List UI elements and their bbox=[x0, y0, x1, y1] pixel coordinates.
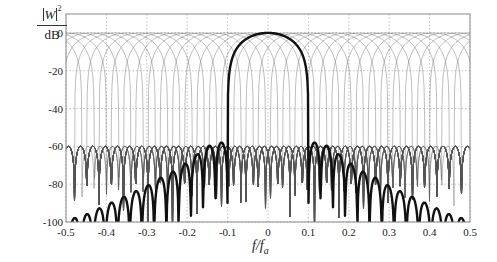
plot-area: -0.5-0.4-0.3-0.2-0.100.10.20.30.40.5 0-2… bbox=[0, 0, 497, 262]
x-tick-label: -0.2 bbox=[178, 226, 195, 238]
x-tick-label: 0.1 bbox=[302, 226, 316, 238]
window-response-curve bbox=[66, 33, 470, 232]
x-tick-labels: -0.5-0.4-0.3-0.2-0.100.10.20.30.40.5 bbox=[57, 226, 477, 238]
x-tick-label: 0.5 bbox=[463, 226, 477, 238]
x-tick-label: 0.4 bbox=[423, 226, 437, 238]
y-axis-label-exponent: 2 bbox=[57, 4, 61, 13]
y-tick-label: -80 bbox=[48, 178, 63, 190]
y-tick-label: -100 bbox=[43, 216, 64, 228]
y-axis-label-numerator: W bbox=[43, 8, 58, 21]
x-axis-label: f/fa bbox=[252, 238, 269, 256]
y-tick-label: -20 bbox=[48, 65, 63, 77]
x-tick-label: 0.2 bbox=[342, 226, 356, 238]
grid-lines bbox=[66, 14, 470, 222]
x-tick-label: 0 bbox=[265, 226, 271, 238]
x-axis-label-main: f/f bbox=[252, 238, 264, 253]
x-tick-label: 0.3 bbox=[382, 226, 396, 238]
x-tick-label: -0.1 bbox=[219, 226, 236, 238]
y-tick-label: -40 bbox=[48, 103, 63, 115]
y-tick-label: -60 bbox=[48, 140, 63, 152]
y-axis-label: W2 dB bbox=[34, 4, 70, 43]
fraction-bar bbox=[37, 25, 67, 26]
x-tick-label: -0.3 bbox=[138, 226, 156, 238]
y-axis-label-denominator: dB bbox=[34, 27, 70, 43]
x-tick-label: -0.4 bbox=[98, 226, 116, 238]
x-axis-label-sub: a bbox=[264, 245, 269, 256]
axes-frame bbox=[66, 14, 470, 222]
y-tick-labels: 0-20-40-60-80-100 bbox=[43, 27, 64, 228]
